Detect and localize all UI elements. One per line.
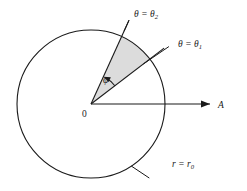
label-phi-angle: φ bbox=[103, 75, 108, 85]
label-theta-2: θ=θ2 bbox=[134, 9, 159, 20]
label-theta-1-var: θ bbox=[178, 39, 183, 49]
label-axis-a: A bbox=[217, 100, 224, 110]
figure-container: θ=θ2 θ=θ1 r=r0 A 0 φ bbox=[0, 0, 247, 191]
label-theta-2-var: θ bbox=[134, 9, 139, 19]
shaded-sector bbox=[91, 37, 150, 104]
label-theta-1-eq: = bbox=[186, 39, 191, 49]
label-origin: 0 bbox=[82, 109, 87, 119]
label-theta-1: θ=θ1 bbox=[178, 39, 202, 50]
label-theta-1-subscript: 1 bbox=[199, 43, 202, 50]
label-r0-eq: = bbox=[179, 159, 184, 169]
r0-label-leader bbox=[131, 166, 149, 178]
axis-arrowhead-icon bbox=[201, 101, 210, 108]
label-r0-subscript: 0 bbox=[191, 163, 195, 170]
label-circle-radius: r=r0 bbox=[172, 159, 195, 170]
label-theta-2-subscript: 2 bbox=[155, 13, 159, 20]
theta-2-label-leader bbox=[124, 20, 129, 31]
geometry-diagram: θ=θ2 θ=θ1 r=r0 A 0 φ bbox=[0, 0, 247, 191]
label-theta-2-eq: = bbox=[142, 9, 147, 19]
label-r0-var: r bbox=[172, 159, 176, 169]
